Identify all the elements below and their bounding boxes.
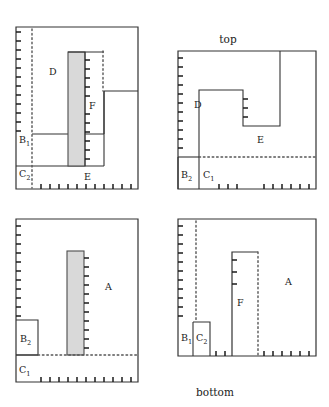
- region-label-c1: C1: [19, 364, 30, 378]
- region-label-e: E: [84, 171, 91, 182]
- ticks-left-edge: [16, 226, 21, 316]
- caption-top: top: [219, 33, 237, 45]
- region-label-d: D: [49, 66, 57, 77]
- ticks-left-edge: [16, 32, 21, 131]
- panel-bottom-left: A B2 C1: [16, 219, 138, 382]
- region-label-d: D: [194, 99, 202, 110]
- region-label-b2: B2: [181, 169, 192, 183]
- region-label-f: F: [237, 297, 244, 308]
- panel-top-right: top D E B2 C1: [178, 33, 316, 189]
- ticks-f-axis: [232, 260, 237, 284]
- partition-notch-step: [199, 51, 280, 157]
- figure-four-panel-diagram: D B1 C2 E F top: [0, 0, 329, 407]
- region-label-c1: C1: [203, 169, 214, 183]
- ticks-notch-axis: [243, 99, 248, 117]
- region-label-a: A: [104, 281, 112, 292]
- region-label-a: A: [284, 276, 292, 287]
- caption-bottom: bottom: [196, 386, 234, 398]
- panel-top-left: D B1 C2 E F: [16, 27, 138, 189]
- partition-f-wall: [232, 252, 258, 356]
- ticks-left-edge: [178, 226, 183, 316]
- region-label-b1: B1: [19, 134, 30, 148]
- region-label-b1: B1: [181, 332, 192, 346]
- ticks-bottom-edge: [41, 377, 131, 382]
- panel-bottom-right: B1 C2 F A bottom: [178, 219, 316, 398]
- shaded-bar: [67, 251, 84, 355]
- ticks-bar-axis: [84, 258, 89, 348]
- region-label-c2: C2: [19, 168, 30, 182]
- region-label-e: E: [257, 134, 264, 145]
- diagram-canvas: D B1 C2 E F top: [0, 0, 329, 407]
- region-label-f: F: [89, 100, 96, 111]
- region-label-b2: B2: [20, 333, 31, 347]
- ticks-left-edge: [178, 58, 183, 148]
- shaded-bar: [68, 52, 85, 166]
- ticks-bottom-edge: [41, 184, 131, 189]
- region-label-c2: C2: [196, 332, 207, 346]
- ticks-bottom-edge: [216, 351, 309, 356]
- ticks-bottom-edge: [219, 184, 309, 189]
